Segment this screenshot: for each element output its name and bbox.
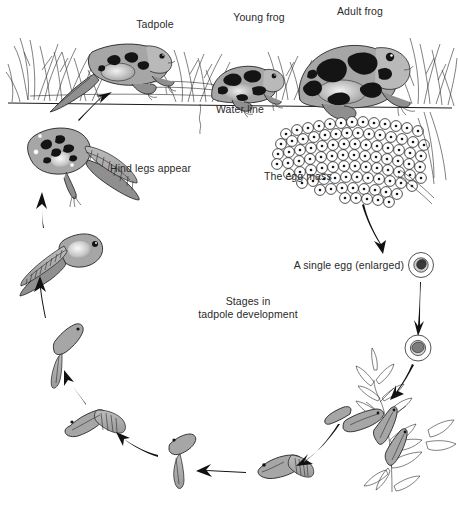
froglet-eye [159, 53, 164, 58]
stage-adult-frog [299, 45, 415, 130]
label-tadpole: Tadpole [136, 18, 174, 30]
stage-tadpole-swimming [169, 434, 196, 489]
adult-frog-eye [386, 53, 394, 61]
stage-tadpole-large [20, 234, 103, 296]
tadpole-legbud-eye [76, 327, 79, 330]
water-drip [199, 104, 200, 134]
young-frog-eye [272, 74, 277, 79]
label-single-egg: A single egg (enlarged) [294, 259, 404, 271]
diagram-canvas: Tadpole Young frog Adult frog Water line… [0, 0, 458, 510]
arrow-swimming-to-growing [116, 432, 158, 457]
tadpole-growing-eye [70, 420, 73, 423]
stage-egg-mass [272, 112, 446, 207]
arrow-eggmass-to-egg [362, 204, 386, 254]
arrow-hatching-to-plant [390, 364, 414, 400]
arrow-early-to-swimming [196, 464, 246, 477]
bank-line [30, 94, 235, 97]
label-center-line2: tadpole development [198, 308, 297, 320]
arrow-egg-to-hatching [414, 282, 424, 336]
tadpole-large-eye [92, 241, 98, 247]
frog-life-cycle-diagram: Tadpole Young frog Adult frog Water line… [0, 0, 458, 510]
label-hind-legs-appear: Hind legs appear [110, 162, 191, 174]
label-water-line: Water line [216, 103, 264, 115]
label-center-line1: Stages in [226, 295, 271, 307]
arrow-hindlegs-to-froglet [78, 92, 112, 121]
label-egg-mass: The egg mass [264, 170, 332, 182]
stage-hatchlings-on-plant [325, 348, 456, 492]
stage-hatching-egg [405, 335, 431, 361]
label-young-frog: Young frog [233, 11, 284, 23]
arrow-growing-to-legbud [64, 370, 86, 405]
label-adult-frog: Adult frog [337, 5, 383, 17]
arrow-large-to-hindlegs [36, 192, 47, 228]
tadpole-early-eye [262, 463, 266, 467]
stage-single-egg [409, 253, 434, 278]
tadpole-swimming-eye [172, 438, 175, 441]
arrow-plant-to-tadpole-early [296, 424, 340, 466]
